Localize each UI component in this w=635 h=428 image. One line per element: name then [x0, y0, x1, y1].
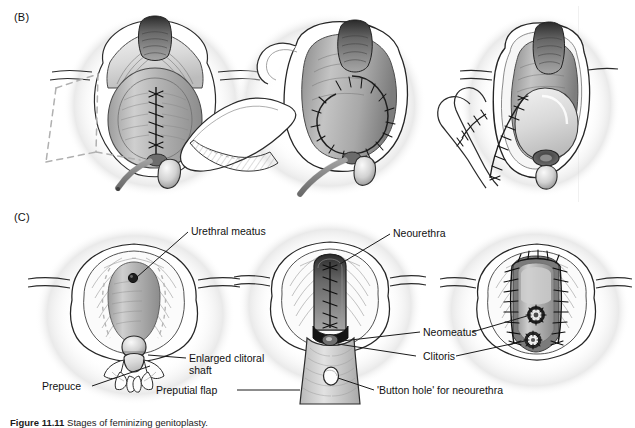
catheter-tube [300, 160, 345, 194]
button-hole-opening [324, 367, 339, 385]
neomeatus-rosette [526, 305, 546, 325]
illustration-b-left [46, 13, 260, 197]
label-neourethra: Neourethra [393, 227, 446, 240]
clitoris-rosette [524, 331, 542, 349]
suture-stitches-b-middle [311, 77, 395, 162]
preputial-flap-shape [300, 338, 360, 404]
page-seam [578, 6, 579, 202]
figure-caption-number: Figure 11.11 [10, 417, 64, 428]
label-clitoris: Clitoris [423, 350, 455, 363]
illustration-b-middle [181, 13, 426, 197]
sutured-margin [317, 76, 388, 154]
illustration-c-right [440, 224, 632, 396]
label-urethral-meatus: Urethral meatus [191, 225, 266, 238]
illustration-c-left [28, 225, 240, 405]
suture-stitches-c-middle [323, 265, 337, 328]
figure-root: (B) (C) [0, 0, 635, 428]
leader-button-hole [338, 378, 374, 390]
leader-lines [92, 232, 527, 390]
label-neomeatus: Neomeatus [423, 326, 477, 339]
figure-caption: Figure 11.11 Stages of feminizing genito… [10, 417, 430, 428]
leader-clitoris-right [456, 341, 525, 356]
leader-prepuce [92, 366, 150, 386]
suture-stitches-c-right-right-side [551, 268, 568, 345]
suture-stitches-c-right-left-side [504, 268, 521, 345]
label-button-hole: 'Button hole' for neourethra [377, 384, 503, 397]
suture-stitches-b-left [149, 91, 163, 148]
leader-neomeatus-right [472, 316, 527, 332]
suture-stitches-b-right-strip [490, 96, 528, 180]
catheter-tube [118, 161, 150, 188]
leader-clitoris-mid [338, 344, 416, 356]
label-preputial-flap: Preputial flap [156, 384, 217, 397]
figure-caption-text: Stages of feminizing genitoplasty. [64, 417, 207, 428]
urethral-meatus-point [128, 273, 137, 282]
label-prepuce: Prepuce [42, 380, 81, 393]
illustration-canvas [0, 0, 635, 428]
dashed-flap-outline [46, 74, 140, 162]
leader-urethral-meatus [137, 232, 188, 277]
label-enlarged-clitoral-shaft-line2: shaft [189, 364, 212, 377]
clitoral-glans [122, 336, 146, 357]
leader-neourethra [340, 234, 390, 264]
panel-letter-b: (B) [14, 11, 29, 23]
mobilized-flap [181, 98, 296, 171]
label-enlarged-clitoral-shaft-line1: Enlarged clitoral [189, 352, 264, 365]
leader-neomeatus-mid [342, 332, 420, 341]
leader-enlarged-clitoral-shaft [148, 355, 186, 358]
illustration-b-right [438, 13, 620, 197]
neourethra-tube [314, 254, 346, 330]
illustration-c-middle [234, 219, 426, 404]
panel-letter-c: (C) [14, 211, 30, 223]
